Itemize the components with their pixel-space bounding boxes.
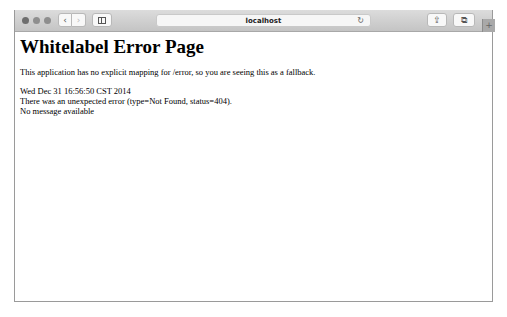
error-type-status: There was an unexpected error (type=Not … <box>20 96 487 106</box>
forward-button[interactable]: › <box>72 13 86 27</box>
new-tab-button[interactable]: + <box>482 19 495 32</box>
error-details: Wed Dec 31 16:56:50 CST 2014 There was a… <box>20 86 487 116</box>
browser-toolbar: ‹ › localhost ↻ ⇪ ⧉ + <box>15 10 492 32</box>
share-icon: ⇪ <box>433 15 441 25</box>
browser-window: ‹ › localhost ↻ ⇪ ⧉ + Whitelabel Error P… <box>14 10 493 302</box>
sidebar-icon <box>98 17 106 24</box>
sidebar-toggle-button[interactable] <box>92 13 112 27</box>
plus-icon: + <box>485 20 493 30</box>
zoom-window-button[interactable] <box>44 17 51 24</box>
minimize-window-button[interactable] <box>33 17 40 24</box>
page-description: This application has no explicit mapping… <box>20 67 487 77</box>
error-message: No message available <box>20 106 487 116</box>
show-all-tabs-button[interactable]: ⧉ <box>453 13 475 27</box>
share-button[interactable]: ⇪ <box>427 13 447 27</box>
close-window-button[interactable] <box>22 17 29 24</box>
address-bar[interactable]: localhost ↻ <box>156 14 371 27</box>
address-text: localhost <box>157 15 370 27</box>
error-timestamp: Wed Dec 31 16:56:50 CST 2014 <box>20 86 487 96</box>
window-controls <box>22 17 51 24</box>
reload-icon[interactable]: ↻ <box>357 15 364 27</box>
tabs-icon: ⧉ <box>461 15 467 26</box>
page-title: Whitelabel Error Page <box>20 36 487 58</box>
page-content: Whitelabel Error Page This application h… <box>20 36 487 116</box>
chevron-right-icon: › <box>77 15 81 25</box>
chevron-left-icon: ‹ <box>63 15 67 25</box>
navigation-buttons: ‹ › <box>58 13 86 27</box>
back-button[interactable]: ‹ <box>58 13 72 27</box>
